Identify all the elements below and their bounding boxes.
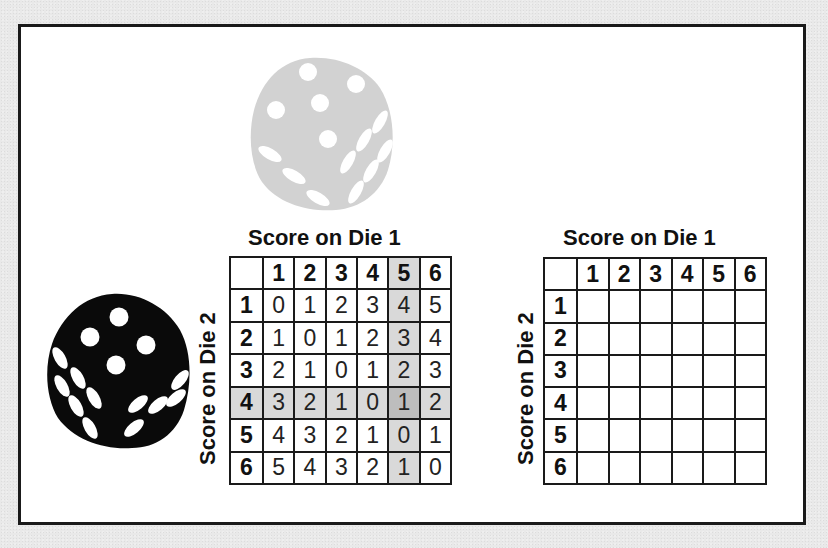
blank-cell[interactable]	[735, 419, 767, 451]
table-cell: 2	[326, 289, 357, 321]
table-row: 1	[544, 290, 766, 322]
col-header: 6	[735, 258, 767, 290]
table-cell: 1	[326, 387, 357, 419]
blank-cell[interactable]	[640, 419, 672, 451]
col-header: 2	[294, 257, 325, 289]
blank-cell[interactable]	[703, 323, 735, 355]
blank-cell[interactable]	[640, 355, 672, 387]
blank-cell[interactable]	[609, 355, 641, 387]
blank-cell[interactable]	[640, 323, 672, 355]
blank-cell[interactable]	[609, 323, 641, 355]
table-cell: 3	[388, 322, 419, 354]
table-row: 6 5 4 3 2 1 0	[230, 452, 451, 484]
col-header-highlighted: 5	[388, 257, 419, 289]
blank-cell[interactable]	[703, 290, 735, 322]
right-table-side-label: Score on Die 2	[515, 312, 537, 465]
col-header: 4	[672, 258, 704, 290]
table-header-row: 1 2 3 4 5 6	[544, 258, 766, 290]
row-header: 6	[230, 452, 263, 484]
table-cell: 2	[263, 354, 294, 386]
blank-table: 1 2 3 4 5 6 1 2 3 4	[543, 257, 767, 485]
blank-cell[interactable]	[703, 419, 735, 451]
blank-cell[interactable]	[735, 387, 767, 419]
table-cell: 3	[294, 419, 325, 451]
table-cell: 4	[263, 419, 294, 451]
gray-die-icon	[248, 54, 398, 212]
table-cell: 2	[388, 354, 419, 386]
left-table-side-label: Score on Die 2	[197, 312, 219, 465]
row-header: 2	[230, 322, 263, 354]
blank-cell[interactable]	[672, 419, 704, 451]
row-header: 3	[230, 354, 263, 386]
table-cell: 2	[326, 419, 357, 451]
col-header: 6	[420, 257, 451, 289]
blank-cell[interactable]	[609, 290, 641, 322]
blank-cell[interactable]	[577, 452, 609, 484]
table-cell: 1	[388, 452, 419, 484]
blank-cell[interactable]	[672, 323, 704, 355]
row-header: 4	[544, 387, 577, 419]
blank-cell[interactable]	[640, 452, 672, 484]
table-row: 1 0 1 2 3 4 5	[230, 289, 451, 321]
row-header: 3	[544, 355, 577, 387]
table-cell: 1	[357, 354, 388, 386]
table-cell: 4	[420, 322, 451, 354]
blank-cell[interactable]	[735, 355, 767, 387]
col-header: 5	[703, 258, 735, 290]
table-row: 2 1 0 1 2 3 4	[230, 322, 451, 354]
blank-cell[interactable]	[640, 387, 672, 419]
blank-cell[interactable]	[577, 323, 609, 355]
table-cell: 0	[420, 452, 451, 484]
row-header-highlighted: 4	[230, 387, 263, 419]
blank-cell[interactable]	[672, 387, 704, 419]
table-cell: 0	[263, 289, 294, 321]
blank-cell[interactable]	[609, 387, 641, 419]
table-cell: 2	[357, 452, 388, 484]
col-header: 1	[577, 258, 609, 290]
blank-cell[interactable]	[609, 419, 641, 451]
row-header: 5	[544, 419, 577, 451]
col-header: 2	[609, 258, 641, 290]
col-header: 3	[640, 258, 672, 290]
table-cell: 1	[420, 419, 451, 451]
blank-cell[interactable]	[577, 387, 609, 419]
table-row-highlighted: 4 3 2 1 0 1 2	[230, 387, 451, 419]
blank-cell[interactable]	[577, 290, 609, 322]
blank-cell[interactable]	[577, 419, 609, 451]
table-row: 5 4 3 2 1 0 1	[230, 419, 451, 451]
corner-cell	[544, 258, 577, 290]
table-cell: 0	[294, 322, 325, 354]
table-header-row: 1 2 3 4 5 6	[230, 257, 451, 289]
table-cell: 2	[420, 387, 451, 419]
blank-cell[interactable]	[640, 290, 672, 322]
table-cell: 1	[263, 322, 294, 354]
table-cell: 1	[357, 419, 388, 451]
table-row: 6	[544, 452, 766, 484]
table-cell: 2	[294, 387, 325, 419]
table-row: 5	[544, 419, 766, 451]
row-header: 5	[230, 419, 263, 451]
blank-cell[interactable]	[735, 290, 767, 322]
table-cell: 3	[420, 354, 451, 386]
table-cell: 0	[388, 419, 419, 451]
blank-cell[interactable]	[577, 355, 609, 387]
blank-cell[interactable]	[735, 323, 767, 355]
difference-table: 1 2 3 4 5 6 1 0 1 2 3 4 5 2 1 0 1 2 3 4 …	[229, 256, 452, 485]
blank-cell[interactable]	[735, 452, 767, 484]
table-cell-intersection: 1	[388, 387, 419, 419]
row-header: 1	[544, 290, 577, 322]
table-cell: 1	[294, 289, 325, 321]
blank-cell[interactable]	[672, 290, 704, 322]
blank-cell[interactable]	[703, 387, 735, 419]
table-cell: 3	[357, 289, 388, 321]
col-header: 1	[263, 257, 294, 289]
blank-cell[interactable]	[703, 355, 735, 387]
blank-cell[interactable]	[672, 355, 704, 387]
blank-cell[interactable]	[703, 452, 735, 484]
row-header: 2	[544, 323, 577, 355]
blank-cell[interactable]	[609, 452, 641, 484]
table-cell: 5	[420, 289, 451, 321]
blank-cell[interactable]	[672, 452, 704, 484]
left-table-title: Score on Die 1	[248, 227, 401, 249]
table-cell: 4	[294, 452, 325, 484]
